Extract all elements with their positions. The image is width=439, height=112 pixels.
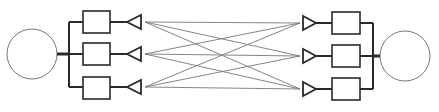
rx-module-box — [332, 78, 360, 100]
channel-path-line — [145, 22, 300, 56]
transmitter-group — [7, 11, 141, 99]
channel-paths — [145, 22, 300, 89]
rx-module-box — [332, 45, 360, 67]
tx-antenna-icon — [127, 80, 141, 94]
tx-antenna-icon — [127, 47, 141, 61]
channel-path-line — [145, 23, 300, 54]
rx-antenna-icon — [303, 82, 316, 96]
channel-path-line — [145, 56, 300, 87]
tx-source-circle — [7, 29, 57, 79]
receiver-group — [303, 12, 430, 100]
tx-module-box — [83, 11, 110, 33]
tx-module-box — [83, 77, 110, 99]
mimo-diagram — [0, 0, 439, 112]
rx-sink-circle — [380, 31, 430, 81]
tx-module-box — [83, 43, 110, 65]
tx-antenna-icon — [127, 15, 141, 29]
rx-antenna-icon — [303, 16, 316, 30]
channel-path-line — [145, 22, 300, 23]
rx-module-box — [332, 12, 360, 34]
channel-path-line — [145, 23, 300, 87]
rx-antenna-icon — [303, 49, 316, 63]
channel-path-line — [145, 87, 300, 89]
